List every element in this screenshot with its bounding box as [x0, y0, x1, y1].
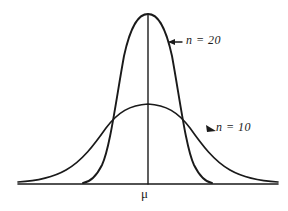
curve-label-n10-text: n = 10 — [216, 120, 251, 134]
curve-label-n20-text: n = 20 — [186, 33, 221, 47]
plot-canvas — [0, 0, 288, 211]
arrow-upleft-icon — [206, 125, 216, 132]
normal-distribution-figure: n = 20 n = 10 μ — [0, 0, 288, 211]
curve-label-n10: n = 10 — [216, 120, 251, 135]
center-axis-label: μ — [141, 186, 148, 202]
arrow-left-icon — [168, 39, 182, 45]
center-axis-label-text: μ — [141, 186, 148, 201]
curve-label-n20: n = 20 — [186, 33, 221, 48]
